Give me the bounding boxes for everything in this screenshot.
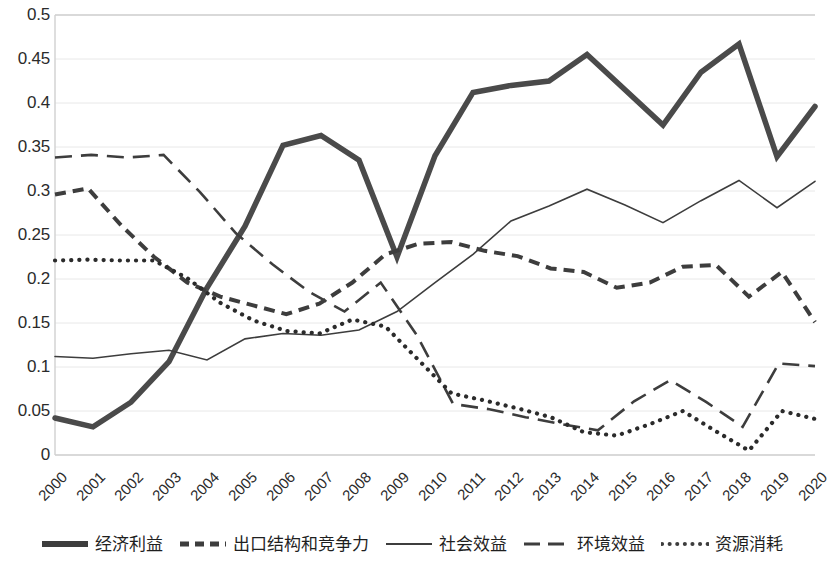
series-line-2 [55,188,815,322]
y-axis-tick-label: 0.35 [4,138,50,155]
y-axis-tick-label: 0.3 [4,182,50,199]
legend-swatch-dotted [661,537,709,551]
y-axis-labels: 0.50.450.40.350.30.250.20.150.10.050 [0,0,50,470]
legend-item-4[interactable]: 环境效益 [523,535,645,553]
legend-item-label: 经济利益 [95,535,163,553]
legend-swatch-thin-solid [385,537,433,551]
y-axis-tick-label: 0.5 [4,6,50,23]
legend-item-2[interactable]: 出口结构和竞争力 [179,535,369,553]
series-line-5 [55,260,815,451]
series-lines [55,44,815,451]
legend-item-label: 资源消耗 [715,535,783,553]
y-axis-tick-label: 0.05 [4,402,50,419]
y-axis-tick-label: 0.2 [4,270,50,287]
legend-item-label: 出口结构和竞争力 [233,535,369,553]
legend-swatch-long-dashed [523,537,571,551]
chart-legend: 经济利益出口结构和竞争力社会效益环境效益资源消耗 [0,527,824,561]
legend-swatch-thick-solid [41,537,89,551]
y-axis-tick-label: 0 [4,446,50,463]
y-axis-tick-label: 0.1 [4,358,50,375]
legend-item-label: 环境效益 [577,535,645,553]
y-axis-tick-label: 0.45 [4,50,50,67]
y-axis-tick-label: 0.25 [4,226,50,243]
y-axis-tick-label: 0.4 [4,94,50,111]
legend-item-1[interactable]: 经济利益 [41,535,163,553]
legend-item-label: 社会效益 [439,535,507,553]
series-line-4 [55,155,815,430]
legend-item-3[interactable]: 社会效益 [385,535,507,553]
legend-item-5[interactable]: 资源消耗 [661,535,783,553]
y-axis-tick-label: 0.15 [4,314,50,331]
gridlines [55,15,815,455]
legend-swatch-thick-dashed [179,537,227,551]
